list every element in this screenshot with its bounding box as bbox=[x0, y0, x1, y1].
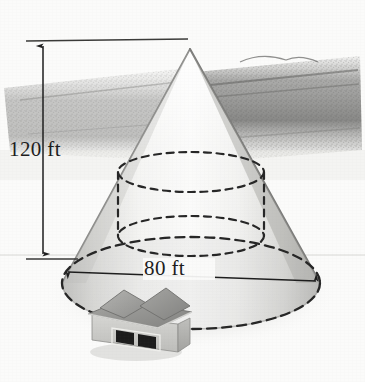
figure-canvas bbox=[0, 0, 365, 382]
height-label: 120 ft bbox=[9, 137, 61, 162]
diameter-label: 80 ft bbox=[144, 256, 185, 281]
cone-figure: 120 ft 80 ft bbox=[0, 0, 365, 382]
